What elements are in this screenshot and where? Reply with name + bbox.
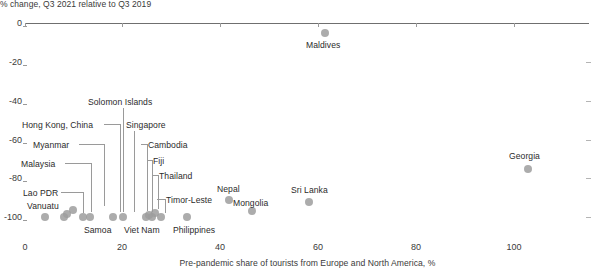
data-point-singapore[interactable] bbox=[119, 213, 127, 221]
point-label-maldives: Maldives bbox=[306, 40, 340, 50]
data-point-vanuatu[interactable] bbox=[41, 213, 49, 221]
point-label-singapore: Singapore bbox=[126, 120, 166, 130]
y-tick-right-m100 bbox=[586, 217, 591, 218]
point-label-sri-lanka: Sri Lanka bbox=[291, 185, 328, 195]
y-tick-dash-m60 bbox=[23, 143, 27, 144]
y-tick-dash-m20 bbox=[23, 65, 27, 66]
data-point-samoa[interactable] bbox=[86, 213, 94, 221]
x-tick-label-0: 0 bbox=[5, 242, 45, 252]
x-tick-label-60: 60 bbox=[298, 242, 338, 252]
point-label-viet-nam: Viet Nam bbox=[124, 225, 160, 235]
leader-solomon-islands-v bbox=[123, 108, 124, 212]
data-point-timor-leste[interactable] bbox=[157, 213, 165, 221]
leader-cambodia-v bbox=[147, 144, 148, 211]
point-label-georgia: Georgia bbox=[509, 151, 540, 161]
leader-malaysia-h bbox=[65, 163, 92, 164]
data-point-philippines[interactable] bbox=[183, 213, 191, 221]
x-tick-mark-0 bbox=[25, 23, 26, 27]
data-point-myanmar[interactable] bbox=[69, 206, 77, 214]
leader-myanmar-v bbox=[104, 144, 105, 206]
y-tick-label-m60: -60 bbox=[0, 135, 22, 145]
point-label-fiji: Fiji bbox=[153, 156, 164, 166]
x-tick-label-80: 80 bbox=[396, 242, 436, 252]
point-label-nepal: Nepal bbox=[217, 184, 240, 194]
x-axis-title: Pre-pandemic share of tourists from Euro… bbox=[0, 258, 615, 268]
x-tick-mark-20 bbox=[122, 23, 123, 27]
point-label-samoa: Samoa bbox=[84, 225, 111, 235]
y-tick-label-0: 0 bbox=[0, 18, 22, 28]
point-label-myanmar: Myanmar bbox=[33, 140, 69, 150]
x-tick-mark-40 bbox=[220, 23, 221, 27]
y-tick-dash-m40 bbox=[23, 104, 27, 105]
data-point-solomon-islands[interactable] bbox=[109, 213, 117, 221]
y-axis-title: % change, Q3 2021 relative to Q3 2019 bbox=[0, 0, 151, 9]
y-tick-label-m100: -100 bbox=[0, 212, 22, 222]
point-label-philippines: Philippines bbox=[173, 225, 215, 235]
point-label-mongolia: Mongolia bbox=[233, 198, 268, 208]
leader-fiji-v bbox=[152, 160, 153, 212]
data-point-maldives[interactable] bbox=[321, 29, 329, 37]
data-point-georgia[interactable] bbox=[524, 165, 532, 173]
data-point-nepal[interactable] bbox=[225, 196, 233, 204]
point-label-vanuatu: Vanuatu bbox=[27, 201, 59, 211]
y-tick-right-m20 bbox=[586, 62, 591, 63]
leader-lao-pdr-h bbox=[61, 192, 84, 193]
point-label-hong-kong: Hong Kong, China bbox=[22, 120, 93, 130]
y-tick-right-m60 bbox=[586, 140, 591, 141]
y-tick-dash-m80 bbox=[23, 181, 27, 182]
scatter-chart: % change, Q3 2021 relative to Q3 2019 0 … bbox=[0, 0, 615, 272]
point-label-thailand: Thailand bbox=[159, 171, 192, 181]
x-tick-label-20: 20 bbox=[102, 242, 142, 252]
y-tick-label-m40: -40 bbox=[0, 96, 22, 106]
leader-hong-kong-v bbox=[120, 124, 121, 212]
data-point-mongolia[interactable] bbox=[248, 207, 256, 215]
leader-lao-pdr-v bbox=[83, 192, 84, 213]
data-point-sri-lanka[interactable] bbox=[305, 198, 313, 206]
point-label-cambodia: Cambodia bbox=[148, 140, 188, 150]
leader-myanmar-h bbox=[79, 144, 105, 145]
y-tick-right-m40 bbox=[586, 101, 591, 102]
leader-hong-kong-h bbox=[104, 124, 121, 125]
y-tick-label-m20: -20 bbox=[0, 57, 22, 67]
point-label-timor-leste: Timor-Leste bbox=[166, 195, 212, 205]
zero-baseline bbox=[25, 23, 589, 24]
point-label-lao-pdr: Lao PDR bbox=[23, 188, 58, 198]
leader-singapore-v bbox=[134, 131, 135, 212]
point-label-solomon-islands: Solomon Islands bbox=[88, 97, 152, 107]
x-tick-mark-100 bbox=[514, 23, 515, 27]
x-tick-label-100: 100 bbox=[494, 242, 534, 252]
y-tick-dash-m100 bbox=[23, 220, 27, 221]
x-tick-mark-60 bbox=[318, 23, 319, 27]
x-tick-label-40: 40 bbox=[200, 242, 240, 252]
x-tick-mark-80 bbox=[416, 23, 417, 27]
y-tick-label-m80: -80 bbox=[0, 173, 22, 183]
point-label-malaysia: Malaysia bbox=[21, 159, 55, 169]
leader-malaysia-v bbox=[91, 163, 92, 212]
y-tick-right-m80 bbox=[586, 178, 591, 179]
